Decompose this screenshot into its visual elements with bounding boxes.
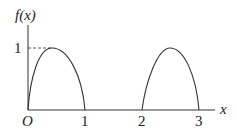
x-tick-2: 2 xyxy=(138,114,146,129)
y-axis-label: f(x) xyxy=(15,8,36,23)
x-tick-1: 1 xyxy=(81,114,89,129)
curve-arch-1 xyxy=(28,48,85,110)
x-tick-3: 3 xyxy=(195,114,203,129)
function-graph: f(x) 1 O 1 2 3 x xyxy=(0,0,237,131)
curve-arch-2 xyxy=(142,48,199,110)
y-tick-1: 1 xyxy=(14,41,22,56)
x-axis-label: x xyxy=(220,102,227,117)
origin-label: O xyxy=(22,114,33,129)
